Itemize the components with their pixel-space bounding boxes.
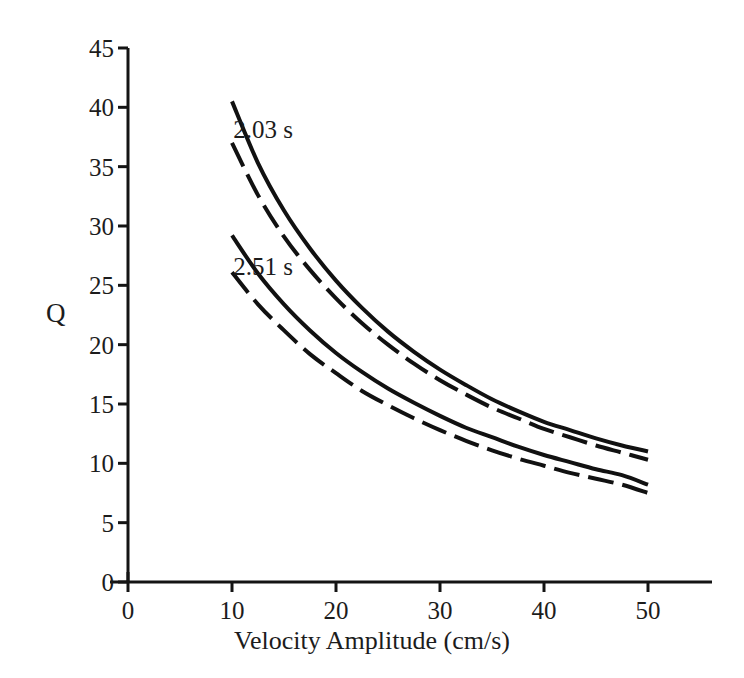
y-axis-tick-label: 5: [70, 510, 114, 535]
series-annotation-label: 2.51 s: [233, 254, 293, 279]
series-annotation-label: 2.03 s: [233, 116, 293, 141]
y-axis-tick-label: 30: [70, 213, 114, 238]
data-curve: [232, 235, 648, 484]
y-axis-tick-label: 15: [70, 391, 114, 416]
y-axis-tick-label: 10: [70, 451, 114, 476]
y-axis-tick-label: 40: [70, 95, 114, 120]
y-axis-tick-label: 25: [70, 273, 114, 298]
axes: [110, 48, 712, 582]
x-axis-tick-label: 10: [220, 598, 245, 623]
x-axis-title: Velocity Amplitude (cm/s): [234, 628, 510, 654]
y-axis-tick-label: 0: [70, 570, 114, 595]
data-curve: [232, 101, 648, 451]
data-curve: [232, 143, 648, 460]
y-axis-title: Q: [46, 300, 66, 327]
y-axis-tick-label: 20: [70, 332, 114, 357]
x-axis-tick-label: 20: [324, 598, 349, 623]
y-axis-tick-label: 45: [70, 35, 114, 60]
x-axis-tick-label: 30: [428, 598, 453, 623]
y-axis-tick-label: 35: [70, 154, 114, 179]
data-curve: [232, 272, 648, 493]
x-axis-tick-label: 40: [532, 598, 557, 623]
x-axis-tick-label: 50: [636, 598, 661, 623]
x-axis-tick-label: 0: [122, 598, 135, 623]
chart-figure: 051015202530354045 01020304050 2.03 s2.5…: [0, 0, 744, 678]
data-curves: [232, 101, 648, 493]
